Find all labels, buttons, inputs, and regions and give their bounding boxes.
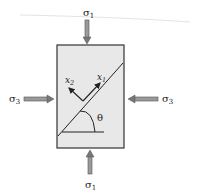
sigma3-right-label: σ3 (162, 93, 173, 106)
sigma3-right-arrow (128, 95, 158, 103)
theta-label: θ (97, 112, 103, 123)
diagram-canvas: σ1 σ1 σ3 σ3 x1 x2 θ (0, 0, 197, 195)
sigma3-left-label: σ3 (9, 93, 20, 106)
stress-diagram: σ1 σ1 σ3 σ3 x1 x2 θ (0, 0, 197, 195)
sigma3-left-arrow (24, 95, 54, 103)
specimen-box (57, 45, 124, 148)
scan-artifact-line (20, 15, 190, 22)
sigma1-top-arrow (83, 20, 91, 44)
sigma1-bottom-arrow (86, 150, 94, 174)
sigma1-top-label: σ1 (83, 7, 94, 20)
sigma1-bottom-label: σ1 (85, 179, 96, 192)
